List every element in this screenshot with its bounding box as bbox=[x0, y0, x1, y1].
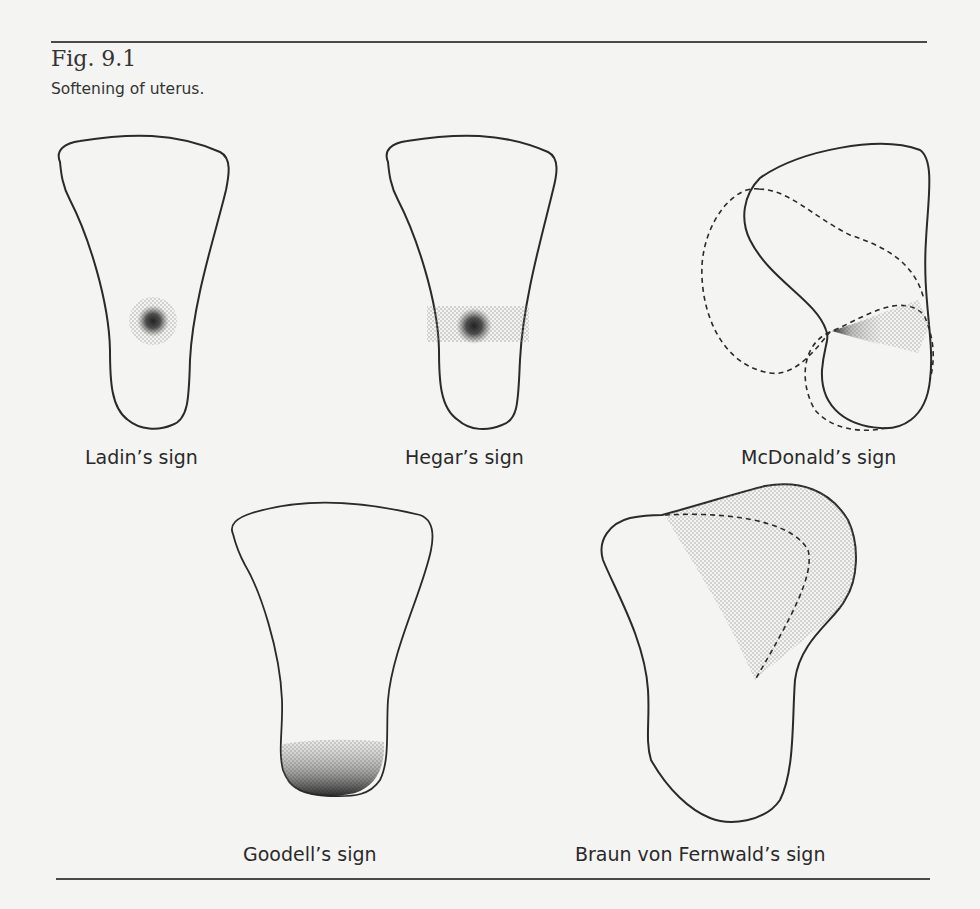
hegars-sign-label: Hegar’s sign bbox=[405, 446, 524, 468]
ladins-sign-label: Ladin’s sign bbox=[85, 446, 198, 468]
goodells-sign-diagram bbox=[232, 503, 433, 797]
ladins-sign-diagram bbox=[59, 136, 229, 429]
goodells-sign-label: Goodell’s sign bbox=[243, 843, 377, 865]
hegars-sign-diagram bbox=[387, 136, 557, 429]
mcdonalds-sign-diagram bbox=[702, 144, 933, 430]
braun-von-fernwald-sign-diagram bbox=[602, 484, 856, 821]
braun-von-fernwald-sign-label: Braun von Fernwald’s sign bbox=[575, 843, 825, 865]
mcdonalds-sign-label: McDonald’s sign bbox=[741, 446, 896, 468]
